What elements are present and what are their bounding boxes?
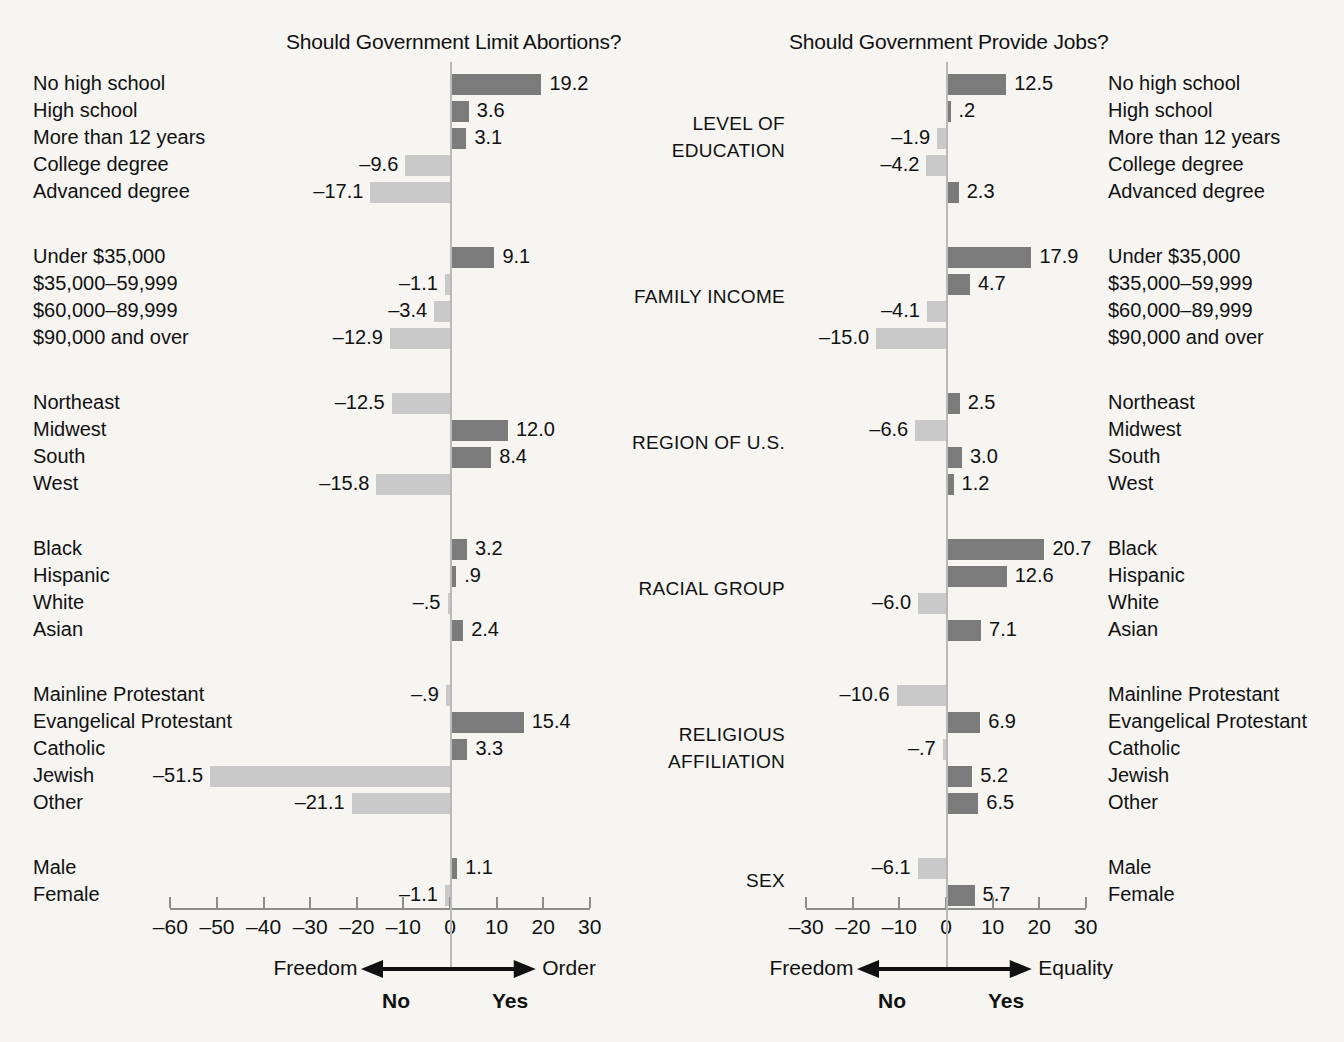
bar-right [926,155,946,176]
row-label-left: Black [33,538,82,559]
bar-value-right: –6.0 [872,592,911,613]
axis-tick-right [992,897,994,908]
row-label-left: Male [33,857,76,878]
group-label-line: RELIGIOUS [600,721,785,748]
bar-value-left: 8.4 [499,446,527,467]
bar-right [948,393,960,414]
row-label-right: Asian [1108,619,1158,640]
axis-line-right [806,908,1086,910]
bar-right [943,739,946,760]
bar-right [918,593,946,614]
axis-line-left [170,908,589,910]
axis-tick-label-left: –40 [246,916,281,938]
bar-value-left: 15.4 [532,711,571,732]
row-label-left: Midwest [33,419,106,440]
bar-right [948,793,978,814]
axis-tick-label-left: 0 [444,916,456,938]
row-label-left: Jewish [33,765,94,786]
zero-line-right [946,62,948,968]
axis-tick-label-left: –60 [153,916,188,938]
bar-left [452,739,467,760]
zero-line-left [450,62,452,968]
bar-value-right: –1.9 [891,127,930,148]
row-label-left: No high school [33,73,165,94]
bar-right [948,474,954,495]
bar-value-left: –17.1 [313,181,363,202]
axis-tick-right [1038,897,1040,908]
bar-right [937,128,946,149]
axis-tick-left [402,897,404,908]
row-label-left: West [33,473,78,494]
bar-value-right: .2 [959,100,976,121]
row-label-right: College degree [1108,154,1244,175]
bar-left [452,858,457,879]
axis-tick-label-left: –30 [293,916,328,938]
bar-value-right: 6.5 [986,792,1014,813]
row-label-right: Evangelical Protestant [1108,711,1307,732]
row-label-left: Under $35,000 [33,246,165,267]
bar-value-right: 5.7 [983,884,1011,905]
chart-plot-area: No high schoolNo high school19.212.5High… [0,0,1344,1042]
axis-tick-label-right: 10 [981,916,1004,938]
row-label-right: Midwest [1108,419,1181,440]
row-label-right: Under $35,000 [1108,246,1240,267]
group-label-line: EDUCATION [600,137,785,164]
bar-left [452,247,494,268]
group-label-line: SEX [600,867,785,894]
row-label-left: Mainline Protestant [33,684,204,705]
axis-caption-right-right: Equality [1038,956,1113,980]
bar-value-left: .9 [464,565,481,586]
axis-yes-label-right: Yes [988,989,1024,1013]
bar-value-left: 2.4 [471,619,499,640]
bar-value-right: –6.6 [869,419,908,440]
axis-tick-label-left: –50 [199,916,234,938]
row-label-left: $60,000–89,999 [33,300,178,321]
row-label-right: Advanced degree [1108,181,1265,202]
bar-left [452,420,508,441]
group-label-line: FAMILY INCOME [600,283,785,310]
row-label-right: Northeast [1108,392,1195,413]
row-label-left: College degree [33,154,169,175]
group-label: REGION OF U.S. [600,429,785,456]
row-label-left: White [33,592,84,613]
bar-value-left: –1.1 [399,273,438,294]
bar-value-left: –.9 [411,684,439,705]
row-label-right: Other [1108,792,1158,813]
bar-value-right: –10.6 [840,684,890,705]
axis-tick-left [263,897,265,908]
bar-value-right: 3.0 [970,446,998,467]
row-label-left: South [33,446,85,467]
row-label-right: West [1108,473,1153,494]
axis-tick-right [1085,897,1087,908]
bar-left [448,593,451,614]
bar-right [948,566,1007,587]
bar-right [915,420,946,441]
row-label-left: $35,000–59,999 [33,273,178,294]
group-label: RACIAL GROUP [600,575,785,602]
bar-left [210,766,450,787]
axis-caption-left-left: Freedom [273,956,357,980]
panel-title-left: Should Government Limit Abortions? [286,30,621,54]
bar-left [405,155,450,176]
row-label-left: $90,000 and over [33,327,189,348]
group-label-line: RACIAL GROUP [600,575,785,602]
axis-tick-left [542,897,544,908]
bar-value-left: –9.6 [359,154,398,175]
group-label-line: REGION OF U.S. [600,429,785,456]
axis-tick-right [852,897,854,908]
axis-tick-left [496,897,498,908]
row-label-left: Hispanic [33,565,110,586]
row-label-right: More than 12 years [1108,127,1280,148]
bar-left [376,474,450,495]
axis-tick-label-right: –30 [789,916,824,938]
freedom-order-arrow-left [361,959,536,981]
bar-value-right: 17.9 [1039,246,1078,267]
axis-tick-right [945,897,947,908]
row-label-left: More than 12 years [33,127,205,148]
bar-value-left: 3.1 [474,127,502,148]
axis-tick-label-right: 30 [1074,916,1097,938]
bar-value-left: –12.9 [333,327,383,348]
bar-value-right: –4.2 [881,154,920,175]
row-label-left: Other [33,792,83,813]
bar-value-left: –21.1 [295,792,345,813]
